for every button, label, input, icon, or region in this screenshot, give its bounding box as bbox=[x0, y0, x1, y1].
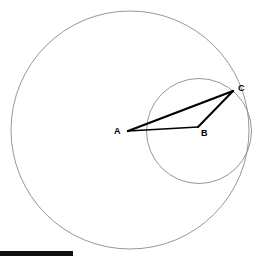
vertex-label-b: B bbox=[201, 129, 208, 138]
small-circle bbox=[147, 79, 252, 184]
vertex-label-a: A bbox=[114, 127, 121, 136]
segment-bc bbox=[198, 91, 233, 127]
segment-ac bbox=[128, 91, 233, 131]
footer-black-bar bbox=[0, 251, 73, 256]
geometry-figure: A B C bbox=[0, 0, 255, 259]
geometry-canvas bbox=[0, 0, 255, 259]
vertex-label-c: C bbox=[238, 84, 245, 93]
